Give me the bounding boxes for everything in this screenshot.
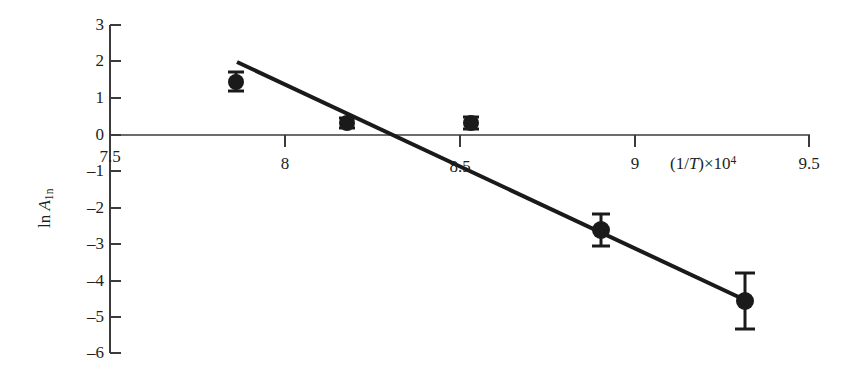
data-point bbox=[592, 214, 610, 246]
x-axis-title: (1/T)×104 bbox=[670, 155, 736, 172]
y-axis-title-subscript: 1n bbox=[43, 189, 56, 201]
fit-line bbox=[237, 62, 745, 300]
x-axis-title-prefix: (1/ bbox=[670, 154, 689, 173]
x-tick-label: 8.5 bbox=[435, 158, 485, 175]
arrhenius-plot-figure: 3 2 1 0 –1 –2 –3 –4 –5 –6 7.5 8 8.5 9 9.… bbox=[0, 0, 850, 378]
y-axis-title-symbol: A bbox=[35, 200, 54, 210]
y-tick-label: –4 bbox=[58, 272, 104, 289]
y-tick-label: –6 bbox=[58, 344, 104, 361]
y-tick-label: –5 bbox=[58, 308, 104, 325]
x-tick-label: 8 bbox=[260, 155, 310, 172]
y-axis-ticks bbox=[110, 25, 121, 353]
y-tick-label: 3 bbox=[62, 16, 104, 33]
x-axis-ticks bbox=[110, 135, 809, 147]
y-tick-label: 2 bbox=[62, 52, 104, 69]
chart-canvas bbox=[0, 0, 850, 378]
data-point bbox=[463, 115, 479, 131]
x-axis-title-exponent: 4 bbox=[731, 154, 737, 167]
data-point bbox=[228, 72, 244, 91]
data-point bbox=[339, 115, 355, 131]
x-axis-title-symbol: T bbox=[689, 154, 698, 173]
x-tick-label: 9.5 bbox=[784, 155, 834, 172]
y-tick-label: –3 bbox=[58, 235, 104, 252]
x-tick-label: 7.5 bbox=[85, 148, 135, 165]
y-tick-label: –2 bbox=[58, 199, 104, 216]
y-axis-title: ln A1n bbox=[36, 189, 55, 228]
data-point bbox=[735, 273, 755, 329]
y-axis-title-prefix: ln bbox=[35, 211, 54, 228]
y-tick-label: 1 bbox=[62, 89, 104, 106]
x-axis-title-suffix: )×10 bbox=[698, 154, 730, 173]
y-tick-label: 0 bbox=[62, 126, 104, 143]
x-tick-label: 9 bbox=[610, 155, 660, 172]
